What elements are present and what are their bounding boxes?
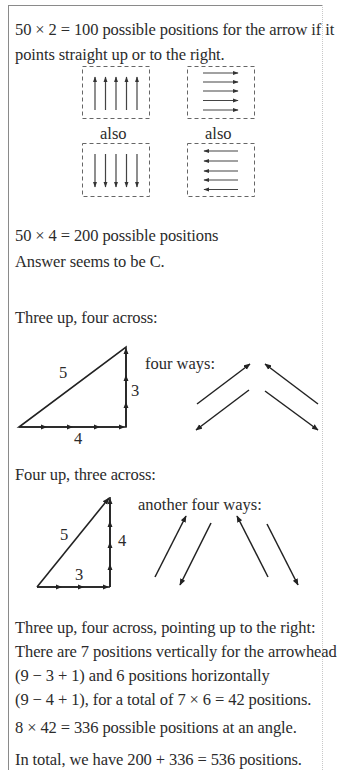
steep-arrow-down-right [267, 524, 298, 585]
section1-heading: Three up, four across: [15, 306, 158, 330]
four-ways-label: four ways: [145, 354, 215, 374]
arrow-up-left [265, 364, 318, 404]
triangle2-horizontal-label: 3 [75, 565, 83, 585]
arrow-down-left [196, 390, 249, 430]
another-four-ways-arrows [155, 516, 298, 585]
steep-arrow-up-right [155, 516, 186, 577]
explanation-line-4: (9 − 4 + 1), for a total of 7 × 6 = 42 p… [15, 688, 311, 712]
triangle1-hypotenuse-label: 5 [59, 363, 67, 383]
also-label-right: also [205, 124, 232, 144]
steep-arrow-down-left [180, 523, 211, 585]
triangle-3-4-5 [19, 347, 126, 427]
triangle1-horizontal-label: 4 [74, 429, 82, 449]
steep-arrow-up-left [237, 516, 268, 577]
explanation-line-2: There are 7 positions vertically for the… [15, 640, 337, 664]
box-arrows-down [83, 144, 150, 197]
triangle2-hypotenuse-label: 5 [60, 525, 68, 545]
result-straight: 50 × 4 = 200 possible positions [15, 224, 218, 248]
box-arrows-left [188, 144, 255, 197]
triangle2-vertical-label: 4 [118, 531, 126, 551]
total-result: In total, we have 200 + 336 = 536 positi… [15, 748, 302, 770]
answer-guess: Answer seems to be C. [15, 250, 165, 274]
section2-heading: Four up, three across: [15, 463, 156, 487]
another-four-ways-label: another four ways: [138, 495, 262, 515]
triangle1-vertical-label: 3 [131, 381, 139, 401]
explanation-line-3: (9 − 3 + 1) and 6 positions horizontally [15, 664, 270, 688]
also-label-left: also [100, 124, 127, 144]
arrow-down-right [265, 391, 318, 430]
result-angle: 8 × 42 = 336 possible positions at an an… [15, 716, 297, 740]
explanation-line-1: Three up, four across, pointing up to th… [15, 616, 315, 640]
triangle-4-3-5 [37, 497, 110, 587]
box-arrows-up [83, 67, 150, 119]
box-arrows-right [188, 67, 255, 119]
